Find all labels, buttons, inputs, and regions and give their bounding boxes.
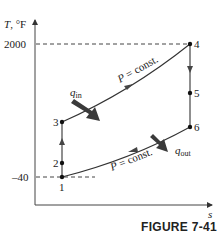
state-label-3: 3 [53, 116, 59, 128]
state-point-3 [60, 120, 64, 124]
q-out-label: qout [175, 144, 192, 158]
arrow-down-4-5 [187, 66, 193, 73]
arrow-up-2-3 [59, 138, 65, 145]
t-s-diagram: T, °F s 2000 –40 1 2 3 4 5 6 P = const [0, 0, 222, 234]
y-tick-minus40: –40 [11, 171, 29, 183]
pressure-label-low: P = const. [107, 145, 154, 173]
figure-caption: FIGURE 7-41 [141, 220, 217, 234]
state-label-5: 5 [194, 87, 200, 99]
q-in-arrow-icon [71, 99, 100, 121]
state-label-4: 4 [194, 38, 200, 50]
state-label-1: 1 [59, 181, 65, 193]
state-point-5 [188, 91, 192, 95]
state-point-2 [60, 161, 64, 165]
process-6-1 [62, 127, 190, 177]
y-axis-label: T, °F [4, 18, 26, 30]
q-in-label: qin [70, 86, 82, 100]
process-3-4 [62, 44, 190, 122]
state-point-1 [60, 175, 64, 179]
x-axis-label: s [208, 208, 212, 220]
state-point-4 [188, 42, 192, 46]
state-label-2: 2 [53, 157, 59, 169]
y-tick-2000: 2000 [4, 38, 27, 50]
state-label-6: 6 [194, 121, 200, 133]
q-out-arrow-icon [150, 134, 168, 152]
pressure-label-high: P = const. [114, 53, 160, 86]
state-point-6 [188, 125, 192, 129]
